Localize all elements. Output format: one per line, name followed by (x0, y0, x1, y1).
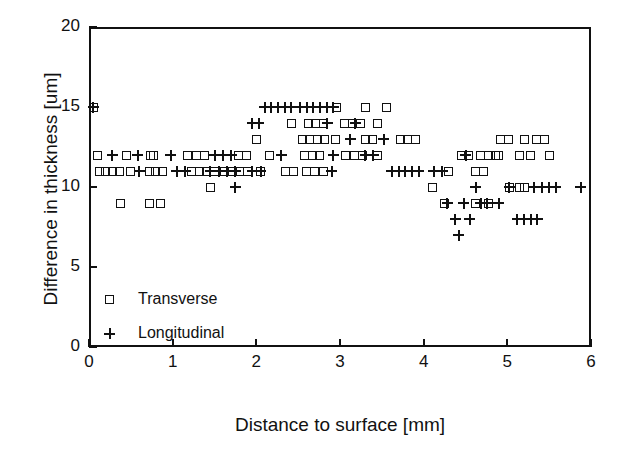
square-marker-icon (104, 294, 116, 306)
y-tick-mark (89, 26, 97, 28)
legend-label-transverse: Transverse (138, 290, 217, 308)
x-tick-label: 5 (487, 352, 527, 372)
x-tick-mark (423, 339, 425, 347)
y-tick-mark (89, 266, 97, 268)
y-axis-label: Difference in thickness [um] (40, 24, 62, 354)
y-tick-mark (89, 186, 97, 188)
y-tick-mark (89, 346, 97, 348)
scatter-plot-figure: 051015200123456 Difference in thickness … (0, 0, 635, 465)
x-tick-label: 1 (153, 352, 193, 372)
x-tick-mark (88, 339, 90, 347)
legend-label-longitudinal: Longitudinal (138, 324, 224, 342)
x-tick-mark (590, 339, 592, 347)
x-axis-label: Distance to surface [mm] (89, 414, 591, 436)
x-tick-label: 2 (236, 352, 276, 372)
x-tick-mark (339, 339, 341, 347)
x-tick-label: 4 (404, 352, 444, 372)
x-tick-label: 0 (69, 352, 109, 372)
x-tick-label: 3 (320, 352, 360, 372)
plus-marker-icon (104, 328, 116, 340)
x-tick-label: 6 (571, 352, 611, 372)
x-tick-mark (506, 339, 508, 347)
y-tick-mark (89, 106, 97, 108)
x-tick-mark (255, 339, 257, 347)
